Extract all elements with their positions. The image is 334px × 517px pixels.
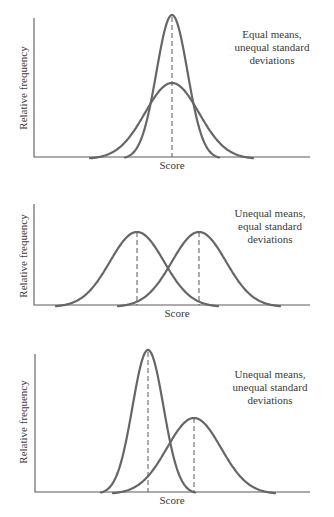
normal-distribution-figure: Score Relative frequency Equal means, un… <box>0 0 334 517</box>
annotation-line-3: deviations <box>247 233 292 245</box>
annotation-line-2: equal standard <box>238 220 302 232</box>
x-axis-label: Score <box>159 159 184 171</box>
x-axis-label: Score <box>159 494 184 506</box>
panel-unequal-means-equal-sd: Score Relative frequency Unequal means, … <box>17 204 310 319</box>
y-axis-label: Relative frequency <box>17 214 29 298</box>
annotation-line-3: deviations <box>249 54 294 66</box>
y-axis-label: Relative frequency <box>17 46 29 130</box>
annotation-line-1: Equal means, <box>242 28 302 40</box>
annotation-line-3: deviations <box>247 394 292 406</box>
annotation-line-2: unequal standard <box>233 381 308 393</box>
annotation-line-1: Unequal means, <box>235 207 306 219</box>
annotation-line-2: unequal standard <box>235 41 310 53</box>
annotation-line-1: Unequal means, <box>235 368 306 380</box>
y-axis-label: Relative frequency <box>17 380 29 464</box>
panel-equal-means: Score Relative frequency Equal means, un… <box>17 15 310 171</box>
panel-unequal-means-unequal-sd: Score Relative frequency Unequal means, … <box>17 350 310 506</box>
x-axis-label: Score <box>164 307 189 319</box>
